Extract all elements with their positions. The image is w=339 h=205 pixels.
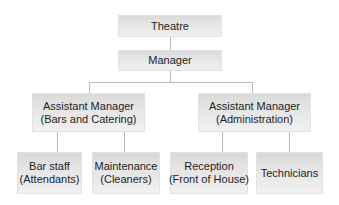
node-sublabel: (Administration) <box>216 113 293 126</box>
node-sublabel: (Bars and Catering) <box>41 113 137 126</box>
connector-to-bar-staff <box>57 132 59 152</box>
node-label: Reception <box>184 160 234 173</box>
node-bar-staff: Bar staff (Attendants) <box>17 152 82 194</box>
node-sublabel: (Attendants) <box>20 173 80 186</box>
connector-to-reception <box>222 132 224 152</box>
connector-to-asst-admin <box>252 82 254 93</box>
node-maintenance: Maintenance (Cleaners) <box>92 152 160 194</box>
node-label: Maintenance <box>95 160 158 173</box>
node-sublabel: (Cleaners) <box>100 173 151 186</box>
node-assistant-manager-admin: Assistant Manager (Administration) <box>198 93 311 132</box>
node-label: Theatre <box>151 20 189 33</box>
node-assistant-manager-bars: Assistant Manager (Bars and Catering) <box>32 93 145 132</box>
connector-to-asst-bars <box>89 82 91 93</box>
node-technicians: Technicians <box>256 152 323 194</box>
node-label: Technicians <box>261 167 318 180</box>
connector-theatre-manager <box>170 37 172 50</box>
connector-assistants-horizontal <box>89 82 253 84</box>
node-label: Manager <box>148 54 191 67</box>
node-label: Assistant Manager <box>209 100 300 113</box>
node-label: Bar staff <box>29 160 70 173</box>
node-manager: Manager <box>118 50 222 71</box>
connector-manager-down <box>170 71 172 82</box>
connector-to-technicians <box>289 132 291 152</box>
node-theatre: Theatre <box>118 15 222 37</box>
node-sublabel: (Front of House) <box>169 173 249 186</box>
node-reception: Reception (Front of House) <box>170 152 248 194</box>
node-label: Assistant Manager <box>43 100 134 113</box>
connector-to-maintenance <box>124 132 126 152</box>
